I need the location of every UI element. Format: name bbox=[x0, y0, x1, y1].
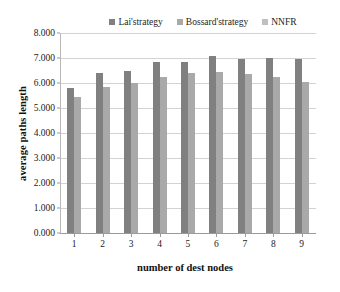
x-tick: 4 bbox=[145, 234, 173, 249]
y-tick-label: 8.000 bbox=[34, 28, 55, 38]
bar[interactable] bbox=[96, 73, 103, 233]
y-tick-label: 2.000 bbox=[34, 178, 55, 188]
x-tick: 2 bbox=[88, 234, 116, 249]
x-tick: 6 bbox=[202, 234, 230, 249]
bar[interactable] bbox=[245, 74, 252, 233]
bar[interactable] bbox=[238, 59, 245, 233]
x-tick-label: 3 bbox=[117, 239, 145, 249]
x-tick: 8 bbox=[259, 234, 287, 249]
x-axis-title: number of dest nodes bbox=[45, 262, 325, 273]
legend-label: Bossard'strategy bbox=[186, 17, 248, 27]
bar[interactable] bbox=[67, 88, 74, 233]
y-tick-label: 7.000 bbox=[34, 53, 55, 63]
x-tick-mark bbox=[273, 234, 274, 237]
bar-group bbox=[145, 33, 173, 233]
y-axis-title: average paths length bbox=[17, 59, 28, 209]
bar-groups bbox=[60, 33, 316, 233]
x-tick: 1 bbox=[60, 234, 88, 249]
bar-group bbox=[231, 33, 259, 233]
x-tick-mark bbox=[216, 234, 217, 237]
x-tick-mark bbox=[103, 234, 104, 237]
bar-group bbox=[288, 33, 316, 233]
x-tick-label: 9 bbox=[288, 239, 316, 249]
x-tick: 5 bbox=[174, 234, 202, 249]
x-tick: 9 bbox=[288, 234, 316, 249]
legend-label: NNFR bbox=[271, 17, 296, 27]
x-axis-ticks: 123456789 bbox=[60, 234, 316, 249]
x-tick-label: 1 bbox=[60, 239, 88, 249]
x-tick: 7 bbox=[231, 234, 259, 249]
bar[interactable] bbox=[124, 71, 131, 234]
bar[interactable] bbox=[103, 87, 110, 233]
x-tick-mark bbox=[302, 234, 303, 237]
bar[interactable] bbox=[266, 58, 273, 233]
bar[interactable] bbox=[188, 73, 195, 233]
bar-group bbox=[174, 33, 202, 233]
legend-item-1[interactable]: Bossard'strategy bbox=[177, 17, 248, 27]
bar-chart: Lai'strategyBossard'strategyNNFR average… bbox=[0, 0, 340, 292]
y-tick-label: 3.000 bbox=[34, 153, 55, 163]
x-tick: 3 bbox=[117, 234, 145, 249]
plot-area: 0.0001.0002.0003.0004.0005.0006.0007.000… bbox=[60, 33, 316, 233]
x-tick-mark bbox=[188, 234, 189, 237]
y-tick-label: 5.000 bbox=[34, 103, 55, 113]
x-tick-label: 6 bbox=[202, 239, 230, 249]
legend-swatch-icon bbox=[109, 19, 115, 25]
bar-group bbox=[88, 33, 116, 233]
legend-item-0[interactable]: Lai'strategy bbox=[109, 17, 162, 27]
x-tick-label: 7 bbox=[231, 239, 259, 249]
x-tick-label: 8 bbox=[259, 239, 287, 249]
x-tick-mark bbox=[245, 234, 246, 237]
bar-group bbox=[202, 33, 230, 233]
legend-item-2[interactable]: NNFR bbox=[262, 17, 296, 27]
bar[interactable] bbox=[131, 83, 138, 233]
x-tick-mark bbox=[131, 234, 132, 237]
x-tick-mark bbox=[74, 234, 75, 237]
bar[interactable] bbox=[181, 62, 188, 233]
bar-group bbox=[117, 33, 145, 233]
x-tick-label: 2 bbox=[88, 239, 116, 249]
x-tick-label: 4 bbox=[145, 239, 173, 249]
legend-swatch-icon bbox=[262, 19, 268, 25]
bar[interactable] bbox=[160, 77, 167, 233]
y-tick-label: 6.000 bbox=[34, 78, 55, 88]
x-tick-mark bbox=[160, 234, 161, 237]
bar[interactable] bbox=[216, 72, 223, 233]
legend-swatch-icon bbox=[177, 19, 183, 25]
x-tick-label: 5 bbox=[174, 239, 202, 249]
bar[interactable] bbox=[273, 77, 280, 233]
bar-group bbox=[259, 33, 287, 233]
y-tick-label: 1.000 bbox=[34, 203, 55, 213]
bar[interactable] bbox=[302, 82, 309, 233]
chart-legend: Lai'strategyBossard'strategyNNFR bbox=[88, 15, 318, 29]
bar[interactable] bbox=[209, 56, 216, 234]
y-tick-label: 0.000 bbox=[34, 228, 55, 238]
legend-label: Lai'strategy bbox=[118, 17, 162, 27]
bar[interactable] bbox=[153, 62, 160, 233]
bar[interactable] bbox=[74, 97, 81, 233]
y-tick-label: 4.000 bbox=[34, 128, 55, 138]
bar-group bbox=[60, 33, 88, 233]
bar[interactable] bbox=[295, 59, 302, 233]
